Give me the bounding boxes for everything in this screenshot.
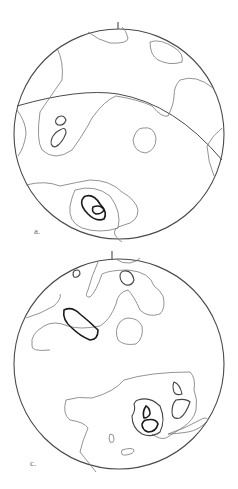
contour-low (38, 48, 116, 156)
contour-mid (172, 399, 190, 418)
great-circle-a (17, 93, 222, 161)
panel-label-a: a. (34, 226, 40, 236)
contour-low (70, 188, 119, 231)
contour-mid (51, 129, 66, 147)
primitive-circle-a (14, 29, 224, 239)
contour-peak (142, 420, 158, 433)
contour-low (150, 41, 182, 64)
contour-mid (173, 382, 182, 395)
contour-mid (120, 271, 134, 285)
contour-low (122, 449, 135, 456)
contour-low (133, 128, 156, 153)
panel-label-c: c. (30, 458, 36, 468)
contour-peak (143, 406, 150, 418)
contour-mid (56, 116, 67, 125)
contour-peak (92, 206, 104, 214)
contour-low (168, 418, 208, 434)
stereonet-panel-c (14, 251, 224, 472)
stereonet-figure (0, 0, 238, 489)
contour-low (116, 318, 142, 345)
primitive-circle-c (14, 259, 224, 469)
contour-low (32, 262, 164, 350)
contour-high (64, 309, 98, 340)
contour-low (109, 434, 114, 443)
stereonet-panel-a (14, 22, 224, 242)
contour-low (17, 110, 26, 156)
contour-low (66, 372, 197, 439)
contour-mid (73, 270, 80, 277)
